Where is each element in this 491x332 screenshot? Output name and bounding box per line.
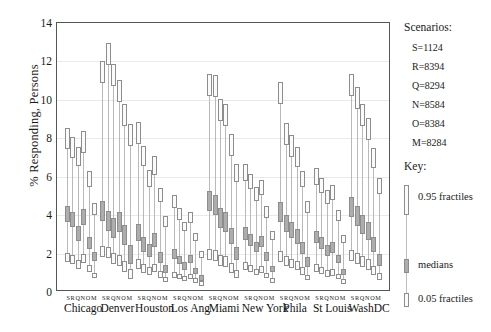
upper-fractile-box (243, 164, 248, 181)
lower-fractile-box (193, 278, 198, 283)
whisker-line (286, 127, 287, 262)
median-box (136, 224, 141, 242)
lower-fractile-box (213, 250, 218, 261)
median-box (243, 227, 248, 240)
upper-fractile-box (300, 171, 305, 188)
box-whisker (371, 21, 376, 290)
lower-fractile-box (371, 266, 376, 275)
box-whisker (92, 21, 97, 290)
upper-fractile-box (111, 64, 116, 86)
median-box (117, 212, 122, 232)
lower-fractile-box (300, 267, 305, 274)
lower-fractile-box (92, 273, 97, 278)
median-box (141, 237, 146, 252)
whisker-line (280, 86, 281, 259)
box-whisker (188, 21, 193, 290)
lower-fractile-box (355, 253, 360, 264)
median-box (147, 244, 152, 257)
median-box (182, 262, 187, 269)
x-axis-group-st-louis: SRQNOMSt Louis (313, 294, 349, 314)
lower-fractile-box (188, 274, 193, 279)
whisker-line (327, 194, 328, 272)
lower-fractile-box (248, 265, 253, 272)
whisker-line (138, 126, 139, 265)
box-whisker (136, 21, 141, 290)
lower-fractile-box (100, 246, 105, 257)
y-tick-label: 10 (41, 94, 53, 106)
lower-fractile-box (278, 251, 283, 262)
scenarios-legend: Scenarios: S=1124 R=8394 Q=8294 N=8584 O… (404, 22, 491, 176)
upper-fractile-box (188, 212, 193, 223)
lower-fractile-box (234, 270, 239, 278)
upper-fractile-box (106, 43, 111, 65)
scenario-letters: SRQNOM (348, 294, 384, 301)
upper-fractile-box (207, 74, 212, 96)
lower-fractile-box (360, 256, 365, 267)
upper-fractile-box (248, 174, 253, 190)
box-whisker (193, 21, 198, 290)
box-whisker (234, 21, 239, 290)
lower-fractile-box (117, 255, 122, 266)
y-tick-label: 4 (46, 209, 52, 221)
box-whisker (213, 21, 218, 290)
whisker-line (332, 189, 333, 271)
whisker-line (78, 151, 79, 265)
median-box (218, 208, 223, 228)
median-box (229, 228, 234, 245)
lower-fractile-box (207, 249, 212, 260)
whisker-line (266, 210, 267, 274)
median-box (76, 226, 81, 241)
median-box (366, 222, 371, 240)
box-whisker (141, 21, 146, 290)
box-whisker (259, 21, 264, 290)
whisker-line (357, 91, 358, 260)
upper-fractile-box (163, 216, 168, 227)
whisker-line (209, 78, 210, 256)
whisker-line (362, 108, 363, 263)
median-box (111, 218, 116, 238)
y-tick-label: 8 (46, 132, 52, 144)
box-whisker (65, 21, 70, 290)
whisker-line (89, 175, 90, 268)
upper-fractile-box (128, 124, 133, 146)
whisker-line (261, 184, 262, 268)
lower-fractile-box (111, 253, 116, 264)
x-axis-group-chicago: SRQNOMChicago (64, 294, 100, 314)
median-box (377, 254, 382, 266)
median-box (248, 234, 253, 246)
upper-fractile-box (76, 147, 81, 167)
key-legend: 0.95 fractiles medians 0.05 fractiles (404, 185, 491, 310)
scenario-letters: SRQNOM (313, 294, 349, 301)
upper-fractile-box (264, 206, 269, 218)
upper-fractile-box (349, 74, 354, 96)
box-whisker (360, 21, 365, 290)
box-whisker (152, 21, 157, 290)
lower-fractile-box (330, 269, 335, 275)
box-whisker (147, 21, 152, 290)
lower-fractile-box (106, 247, 111, 258)
median-box (341, 269, 346, 275)
scenario-letters: SRQNOM (135, 294, 171, 301)
whisker-line (297, 151, 298, 266)
y-tick-label: 0 (46, 286, 52, 298)
median-box (81, 209, 86, 225)
upper-fractile-box (259, 180, 264, 195)
upper-fractile-box (366, 118, 371, 140)
whisker-line (179, 212, 180, 275)
box-whisker (270, 21, 275, 290)
median-box (284, 215, 289, 232)
upper-fractile-box (199, 251, 204, 258)
scenario-legend-item: R=8394 (412, 62, 491, 72)
median-box (360, 215, 365, 235)
upper-fractile-box (100, 61, 105, 83)
upper-fractile-box (289, 135, 294, 156)
box-whisker (100, 21, 105, 290)
upper-fractile-box (182, 222, 187, 232)
box-whisker (177, 21, 182, 290)
median-box (87, 237, 92, 249)
median-box (100, 201, 105, 221)
key-label-upper: 0.95 fractiles (418, 191, 473, 202)
median-box (234, 247, 239, 261)
box-whisker (341, 21, 346, 290)
whisker-line (256, 191, 257, 270)
